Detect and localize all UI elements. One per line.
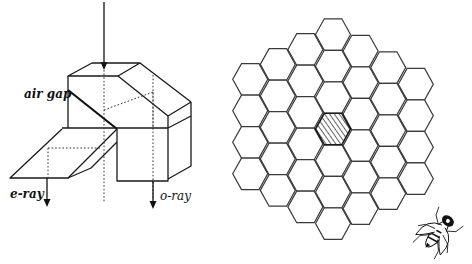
fly-icon bbox=[408, 204, 468, 264]
o-ray-arrowhead-icon bbox=[150, 201, 157, 209]
right-block-body bbox=[168, 116, 191, 179]
figure-canvas: air gap e-ray o-ray bbox=[0, 0, 472, 264]
hexagonal-ommatidia-grid bbox=[233, 19, 434, 240]
air-gap-line bbox=[68, 90, 117, 129]
o-ray-label: o-ray bbox=[160, 189, 191, 203]
air-gap-label: air gap bbox=[24, 87, 72, 101]
lower-left-prism bbox=[10, 129, 117, 178]
e-ray-arrowhead-icon bbox=[44, 199, 51, 207]
lower-left-prism-inner bbox=[68, 142, 117, 178]
e-ray-label: e-ray bbox=[10, 187, 45, 201]
lower-center-block bbox=[117, 129, 168, 181]
right-block-top bbox=[168, 102, 191, 128]
prism-diagram: air gap e-ray o-ray bbox=[10, 2, 191, 209]
